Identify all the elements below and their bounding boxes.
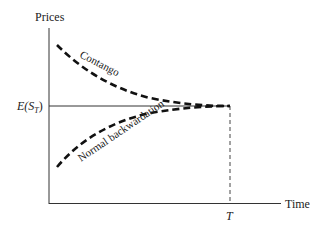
maturity-tick-label: T bbox=[226, 209, 234, 223]
y-axis-label: Prices bbox=[35, 10, 65, 24]
contango-label: Contango bbox=[78, 48, 122, 78]
backwardation-label: Normal backwardation bbox=[75, 97, 166, 164]
expected-spot-label: E(ST) bbox=[16, 99, 43, 115]
futures-price-diagram: Prices Time E(ST) T Contango Normal back… bbox=[0, 0, 326, 226]
x-axis-label: Time bbox=[285, 197, 310, 211]
